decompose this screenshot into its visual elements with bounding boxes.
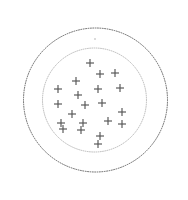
plot-canvas <box>0 0 188 200</box>
cross-marker <box>96 70 104 78</box>
boundary-layer <box>24 28 168 172</box>
cross-marker <box>74 91 82 99</box>
point-pattern-figure <box>0 0 188 200</box>
cross-marker <box>57 119 65 127</box>
stray-point <box>94 38 96 40</box>
outer-region-boundary <box>24 28 168 172</box>
cross-marker <box>98 99 106 107</box>
cross-marker <box>118 108 126 116</box>
cross-marker <box>59 125 67 133</box>
cross-marker <box>96 132 104 140</box>
cross-marker <box>86 59 94 67</box>
cross-marker <box>72 77 80 85</box>
cross-marker <box>111 69 119 77</box>
marker-layer <box>54 59 126 148</box>
cross-marker <box>94 85 102 93</box>
cross-marker <box>79 119 87 127</box>
cross-marker <box>116 84 124 92</box>
stray-point-layer <box>94 38 96 40</box>
cross-marker <box>54 85 62 93</box>
cross-marker <box>118 120 126 128</box>
cross-marker <box>77 126 85 134</box>
cross-marker <box>68 110 76 118</box>
cross-marker <box>104 117 112 125</box>
cross-marker <box>94 140 102 148</box>
cross-marker <box>54 100 62 108</box>
cross-marker <box>81 101 89 109</box>
